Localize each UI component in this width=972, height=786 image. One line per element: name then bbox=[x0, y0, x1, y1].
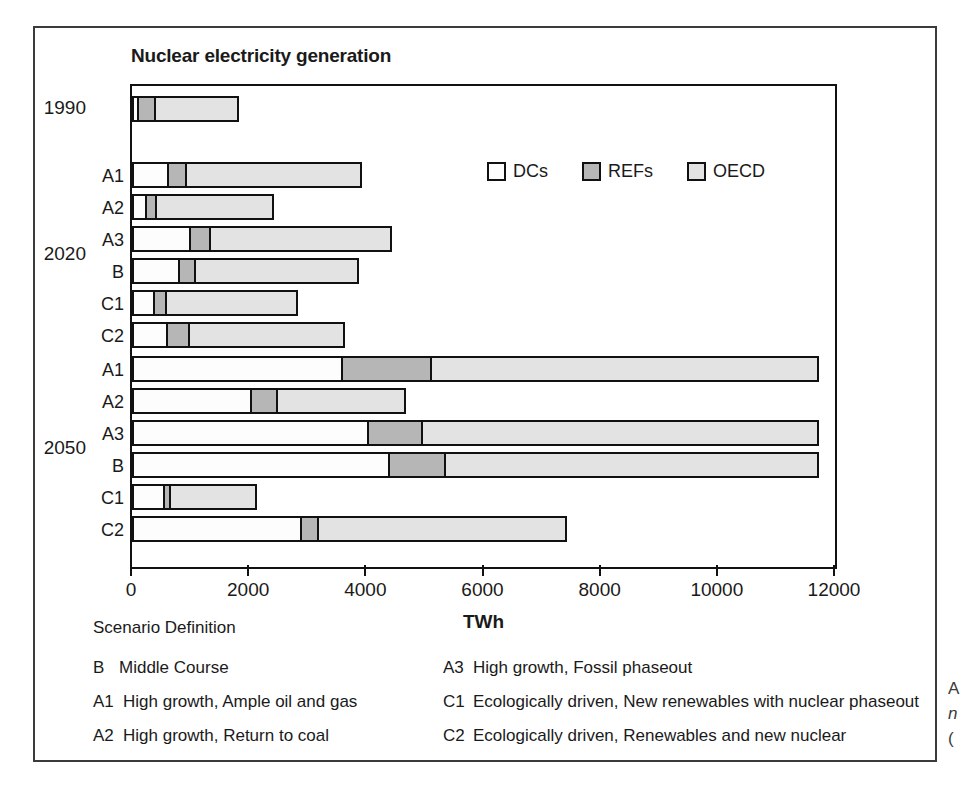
scenario-entry-a3: A3High growth, Fossil phaseout bbox=[443, 658, 923, 678]
x-axis-tick bbox=[364, 565, 366, 576]
scenario-entry-code: C2 bbox=[443, 726, 473, 746]
legend-swatch-icon bbox=[687, 162, 706, 181]
bar-segment-oecd bbox=[169, 484, 257, 510]
scenario-entry-text: High growth, Return to coal bbox=[123, 726, 329, 746]
bar-segment-dcs bbox=[132, 322, 168, 348]
scenario-row-label-c1: C1 bbox=[42, 294, 132, 315]
scenario-row-label-a2: A2 bbox=[42, 198, 132, 219]
edge-caption-fragment: A n ( bbox=[948, 676, 972, 751]
bar-segment-refs bbox=[367, 420, 423, 446]
year-group-label-2020: 2020 bbox=[0, 243, 132, 265]
scenario-entry-text: High growth, Ample oil and gas bbox=[123, 692, 357, 712]
scenario-row-label-c2: C2 bbox=[42, 520, 132, 541]
scenario-entry-text: Middle Course bbox=[119, 658, 229, 678]
bar-segment-oecd bbox=[188, 322, 345, 348]
scenario-columns: BMiddle CourseA1High growth, Ample oil a… bbox=[93, 658, 923, 746]
scenario-entry-b: BMiddle Course bbox=[93, 658, 443, 678]
bar-segment-refs bbox=[341, 356, 432, 382]
scenario-entry-text: Ecologically driven, Renewables and new … bbox=[473, 726, 846, 746]
x-axis-tick-label: 4000 bbox=[344, 579, 386, 601]
x-axis-tick bbox=[247, 565, 249, 576]
bar-row bbox=[132, 452, 817, 478]
edge-caption-line-1: A bbox=[948, 676, 972, 701]
bar-segment-dcs bbox=[132, 290, 155, 316]
legend-item-oecd: OECD bbox=[687, 161, 765, 182]
bar-row bbox=[132, 162, 360, 188]
bar-segment-dcs bbox=[132, 226, 191, 252]
bar-segment-oecd bbox=[444, 452, 819, 478]
bar-segment-dcs bbox=[132, 484, 165, 510]
scenario-row-label-b: B bbox=[42, 262, 132, 283]
bar-segment-oecd bbox=[185, 162, 363, 188]
legend-swatch-icon bbox=[582, 162, 601, 181]
x-axis-tick-label: 10000 bbox=[690, 579, 743, 601]
bar-row bbox=[132, 226, 390, 252]
x-axis-tick-label: 0 bbox=[126, 579, 137, 601]
bar-row bbox=[132, 96, 237, 122]
bar-segment-dcs bbox=[132, 388, 252, 414]
bar-segment-oecd bbox=[276, 388, 406, 414]
bar-segment-refs bbox=[167, 162, 187, 188]
bar-row bbox=[132, 388, 404, 414]
scenario-heading: Scenario Definition bbox=[93, 618, 923, 638]
x-axis-tick bbox=[482, 565, 484, 576]
x-axis-tick-label: 2000 bbox=[227, 579, 269, 601]
scenario-row-label-a2: A2 bbox=[42, 392, 132, 413]
scenario-entry-code: A3 bbox=[443, 658, 473, 678]
bar-segment-oecd bbox=[165, 290, 298, 316]
bar-segment-oecd bbox=[194, 258, 360, 284]
scenario-row-label-a1: A1 bbox=[42, 360, 132, 381]
scenario-entry-a2: A2High growth, Return to coal bbox=[93, 726, 443, 746]
bar-segment-oecd bbox=[209, 226, 392, 252]
bar-row bbox=[132, 322, 343, 348]
x-axis-tick-label: 6000 bbox=[461, 579, 503, 601]
x-axis: 020004000600080001000012000 bbox=[130, 565, 837, 615]
legend-label: REFs bbox=[608, 161, 653, 182]
bar-segment-oecd bbox=[154, 96, 239, 122]
bar-segment-dcs bbox=[132, 516, 302, 542]
bar-segment-refs bbox=[250, 388, 278, 414]
x-axis-tick bbox=[130, 565, 132, 576]
bar-row bbox=[132, 290, 296, 316]
bar-segment-dcs bbox=[132, 452, 390, 478]
x-axis-tick bbox=[716, 565, 718, 576]
scenario-entry-code: A2 bbox=[93, 726, 123, 746]
bar-segment-dcs bbox=[132, 162, 169, 188]
bar-rows-container: A1A2A3BC1C2A1A2A3BC1C2199020202050 bbox=[132, 86, 835, 567]
chart-legend: DCsREFsOECD bbox=[487, 161, 765, 182]
x-axis-tick bbox=[599, 565, 601, 576]
year-group-label-1990: 1990 bbox=[0, 97, 132, 119]
bar-segment-oecd bbox=[421, 420, 819, 446]
edge-caption-line-3: ( bbox=[948, 726, 972, 751]
scenario-row-label-c1: C1 bbox=[42, 488, 132, 509]
scenario-entry-c2: C2Ecologically driven, Renewables and ne… bbox=[443, 726, 923, 746]
legend-item-dcs: DCs bbox=[487, 161, 548, 182]
bar-row bbox=[132, 258, 357, 284]
bar-row bbox=[132, 516, 565, 542]
legend-swatch-icon bbox=[487, 162, 506, 181]
chart-title: Nuclear electricity generation bbox=[131, 45, 391, 67]
scenario-row-label-c2: C2 bbox=[42, 326, 132, 347]
scenario-row-label-b: B bbox=[42, 456, 132, 477]
scenario-entry-code: A1 bbox=[93, 692, 123, 712]
x-axis-tick bbox=[833, 565, 835, 576]
scenario-entry-code: B bbox=[93, 658, 119, 678]
legend-item-refs: REFs bbox=[582, 161, 653, 182]
bar-segment-dcs bbox=[132, 356, 343, 382]
plot-area: A1A2A3BC1C2A1A2A3BC1C2199020202050 bbox=[130, 84, 837, 569]
x-axis-tick-label: 12000 bbox=[808, 579, 861, 601]
bar-row bbox=[132, 484, 255, 510]
scenario-entry-c1: C1Ecologically driven, New renewables wi… bbox=[443, 692, 923, 712]
scenario-entry-text: Ecologically driven, New renewables with… bbox=[473, 692, 919, 712]
scenario-entry-text: High growth, Fossil phaseout bbox=[473, 658, 692, 678]
bar-row bbox=[132, 356, 817, 382]
bar-row bbox=[132, 420, 817, 446]
scenario-definition-block: Scenario Definition BMiddle CourseA1High… bbox=[93, 618, 923, 746]
bar-segment-dcs bbox=[132, 420, 369, 446]
bar-segment-refs bbox=[189, 226, 211, 252]
legend-label: OECD bbox=[713, 161, 765, 182]
bar-segment-oecd bbox=[155, 194, 275, 220]
bar-segment-refs bbox=[388, 452, 447, 478]
scenario-column-left: BMiddle CourseA1High growth, Ample oil a… bbox=[93, 658, 443, 746]
bar-segment-oecd bbox=[317, 516, 567, 542]
